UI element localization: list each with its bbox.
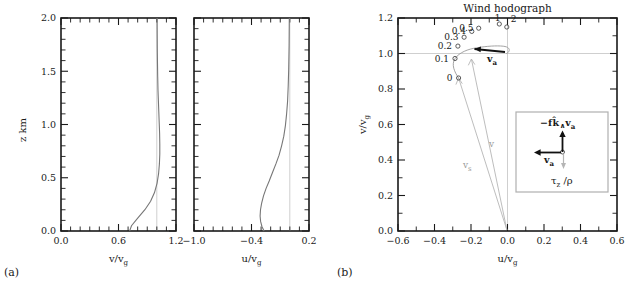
svg-text:1.2: 1.2	[168, 235, 183, 246]
v-profile-y-ticklabels: 0.0 0.5 1.0 1.5 2.0	[41, 12, 56, 236]
panel-a-label: (a)	[4, 266, 19, 279]
u-profile-y-ticks	[194, 18, 309, 231]
inset-coriolis-arrow	[559, 131, 565, 153]
hodograph-x-ticklabels: −0.6 −0.4 −0.2 0.0 0.2 0.4 0.6	[386, 235, 624, 246]
inset-va-label: va	[543, 154, 555, 168]
svg-text:z km: z km	[17, 117, 28, 142]
z-axis-label: z km	[17, 117, 28, 142]
svg-text:−1.0: −1.0	[182, 235, 205, 246]
svg-text:0.5: 0.5	[41, 172, 56, 183]
svg-text:0.0: 0.0	[378, 225, 393, 236]
svg-text:−0.4: −0.4	[423, 235, 446, 246]
svg-text:1.0: 1.0	[378, 48, 393, 59]
inset-coriolis-label: −fk̂∧va	[540, 116, 576, 130]
inset-stress-label: τz /ρ	[551, 175, 573, 189]
svg-text:2: 2	[511, 14, 517, 24]
svg-text:0.4: 0.4	[573, 235, 588, 246]
svg-text:v/vg: v/vg	[357, 114, 371, 135]
v-ray-label: v	[488, 139, 495, 149]
hodograph-marker-0.5	[477, 26, 481, 30]
svg-text:0.0: 0.0	[500, 235, 515, 246]
svg-text:0.5: 0.5	[459, 23, 474, 33]
svg-text:0.8: 0.8	[378, 83, 393, 94]
u-profile-frame	[194, 18, 309, 231]
svg-text:−0.6: −0.6	[386, 235, 409, 246]
svg-text:0.6: 0.6	[609, 235, 624, 246]
va-vector	[475, 46, 506, 52]
u-profile-x-axis-label: u/vg	[242, 253, 262, 267]
svg-text:1.0: 1.0	[41, 119, 56, 130]
svg-text:−0.4: −0.4	[240, 235, 263, 246]
figure-svg: 0.0 0.5 1.0 1.5 2.0 0.0 0.6 1.2 z km v/v…	[0, 0, 625, 283]
v-profile-curve	[130, 18, 160, 231]
svg-text:1.2: 1.2	[378, 12, 393, 23]
va-vector-label: va	[486, 53, 498, 67]
u-profile-x-ticks	[194, 18, 309, 231]
svg-text:0.2: 0.2	[301, 235, 316, 246]
svg-text:0.6: 0.6	[111, 235, 126, 246]
hodograph-inset: −fk̂∧va va τz /ρ	[516, 112, 608, 192]
svg-text:1.5: 1.5	[41, 66, 56, 77]
hodograph-x-axis-label: u/vg	[498, 253, 518, 267]
svg-text:0.6: 0.6	[378, 119, 393, 130]
panel-v-profile: 0.0 0.5 1.0 1.5 2.0 0.0 0.6 1.2 z km v/v…	[17, 12, 184, 266]
svg-text:2.0: 2.0	[41, 12, 56, 23]
panel-b-label: (b)	[337, 266, 353, 279]
svg-text:u/vg: u/vg	[498, 253, 518, 267]
v-profile-x-axis-label: v/vg	[108, 253, 129, 267]
v-profile-x-ticklabels: 0.0 0.6 1.2	[53, 235, 183, 246]
hodograph-y-ticklabels: 0.0 0.2 0.4 0.6 0.8 1.0 1.2	[378, 12, 393, 236]
vs-ray-label: vs	[462, 160, 472, 173]
svg-text:0.1: 0.1	[435, 54, 449, 64]
svg-text:−0.2: −0.2	[459, 235, 482, 246]
hodograph-y-axis-label: v/vg	[357, 114, 371, 135]
vs-ray	[459, 78, 507, 230]
u-profile-curve	[260, 18, 289, 231]
svg-text:0.2: 0.2	[438, 41, 452, 51]
u-profile-x-ticklabels: −1.0 −0.4 0.2	[182, 235, 316, 246]
hodograph-gray-rays	[456, 59, 507, 230]
svg-text:0: 0	[447, 73, 453, 83]
hodograph-marker-0.2	[456, 44, 460, 48]
inset-stress-arrow	[561, 154, 566, 170]
svg-text:0.2: 0.2	[378, 190, 393, 201]
svg-text:u/vg: u/vg	[242, 253, 262, 267]
panel-u-profile: −1.0 −0.4 0.2 u/vg	[182, 18, 316, 267]
svg-text:0.0: 0.0	[53, 235, 68, 246]
svg-text:0.4: 0.4	[378, 154, 393, 165]
hodograph-title: Wind hodograph	[463, 2, 552, 14]
hodograph-marker-2	[505, 25, 509, 29]
figure-container: 0.0 0.5 1.0 1.5 2.0 0.0 0.6 1.2 z km v/v…	[0, 0, 625, 283]
svg-text:0.2: 0.2	[536, 235, 551, 246]
svg-text:1: 1	[495, 13, 501, 23]
panel-wind-hodograph: 0 0.1 0.2 0.3 0.4 0.5 1 2 v vs va	[357, 2, 625, 267]
svg-text:v/vg: v/vg	[108, 253, 129, 267]
